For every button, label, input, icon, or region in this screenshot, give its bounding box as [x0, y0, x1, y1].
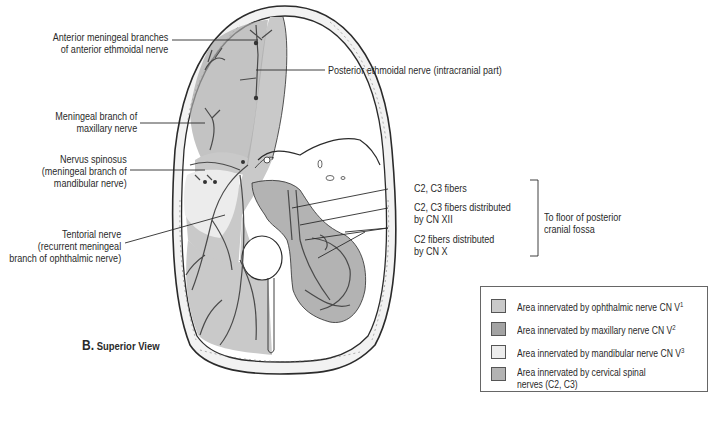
legend-text: Area innervated by maxillary nerve CN V2 [517, 322, 676, 337]
label-line: Meningeal branch of [55, 110, 137, 122]
label-line: To floor of posterior [544, 211, 621, 223]
legend-text: Area innervated by cervical spinal nerve… [517, 367, 646, 391]
label-anterior-meningeal-branches: Anterior meningeal branches of anterior … [53, 31, 168, 55]
label-line: (meningeal branch of [42, 165, 127, 177]
label-line: cranial fossa [544, 223, 621, 235]
legend-swatch-cervical [491, 367, 506, 381]
legend-text: Area innervated by mandibular nerve CN V… [517, 345, 684, 360]
legend-superscript: 2 [672, 324, 675, 331]
label-line: Tentorial nerve [9, 228, 121, 240]
label-c2-fibers-cn-x: C2 fibers distributed by CN X [414, 233, 494, 257]
label-line: maxillary nerve [55, 122, 137, 134]
legend-label: Area innervated by ophthalmic nerve CN V [517, 302, 680, 313]
label-line: mandibular nerve) [42, 177, 127, 189]
label-line: C2, C3 fibers [414, 182, 467, 194]
label-line: of anterior ethmoidal nerve [53, 43, 168, 55]
label-line: by CN X [414, 245, 494, 257]
label-c2-c3-fibers-cn-xii: C2, C3 fibers distributed by CN XII [414, 201, 511, 225]
legend-label: Area innervated by mandibular nerve CN V [517, 348, 681, 359]
label-line: Anterior meningeal branches [53, 31, 168, 43]
foramen-magnum [242, 236, 282, 280]
legend-text: Area innervated by ophthalmic nerve CN V… [517, 299, 683, 314]
legend-label: Area innervated by maxillary nerve CN V [517, 325, 672, 336]
label-posterior-ethmoidal-nerve: Posterior ethmoidal nerve (intracranial … [328, 64, 502, 76]
label-c2-c3-fibers: C2, C3 fibers [414, 182, 467, 194]
label-nervus-spinosus: Nervus spinosus (meningeal branch of man… [42, 153, 127, 189]
legend-swatch-ophthalmic [491, 299, 506, 313]
legend-label-line2: nerves (C2, C3) [517, 379, 646, 391]
legend-swatch-mandibular [491, 345, 506, 359]
legend-item-ophthalmic: Area innervated by ophthalmic nerve CN V… [491, 299, 710, 314]
legend-item-maxillary: Area innervated by maxillary nerve CN V2 [491, 322, 702, 337]
label-line: Nervus spinosus [42, 153, 127, 165]
label-meningeal-branch-maxillary: Meningeal branch of maxillary nerve [55, 110, 137, 134]
caption-letter: B. [82, 337, 94, 353]
figure-caption: B. Superior View [82, 337, 160, 353]
label-line: by CN XII [414, 213, 511, 225]
legend-label: Area innervated by cervical spinal [517, 367, 646, 379]
label-tentorial-nerve: Tentorial nerve (recurrent meningeal bra… [9, 228, 121, 264]
caption-text: Superior View [97, 340, 160, 352]
legend-item-cervical: Area innervated by cervical spinal nerve… [491, 367, 667, 391]
label-line: Posterior ethmoidal nerve (intracranial … [328, 64, 502, 76]
label-line: branch of ophthalmic nerve) [9, 252, 121, 264]
label-line: C2 fibers distributed [414, 233, 494, 245]
label-floor-posterior-cranial-fossa: To floor of posterior cranial fossa [544, 211, 621, 235]
label-line: C2, C3 fibers distributed [414, 201, 511, 213]
legend-superscript: 3 [681, 347, 684, 354]
legend: Area innervated by ophthalmic nerve CN V… [480, 286, 708, 392]
legend-swatch-maxillary [491, 322, 506, 336]
label-line: (recurrent meningeal [9, 240, 121, 252]
legend-superscript: 1 [680, 301, 683, 308]
legend-item-mandibular: Area innervated by mandibular nerve CN V… [491, 345, 712, 360]
